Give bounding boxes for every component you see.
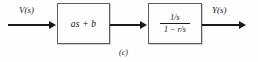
output-signal-label: Y(s): [212, 5, 227, 15]
transfer-function-denominator: 1 − r/s: [161, 24, 189, 35]
interstage-wire: [110, 24, 144, 26]
figure-caption: (c): [119, 48, 128, 57]
transfer-function-fraction: 1/s 1 − r/s: [160, 13, 190, 35]
block-diagram-figure: V(s) as + b 1/s 1 − r/s Y(s) (c): [0, 0, 258, 62]
transfer-function-numerator: 1/s: [167, 13, 182, 24]
output-arrowhead-icon: [239, 21, 246, 29]
gain-block-label: as + b: [71, 19, 97, 29]
output-wire: [202, 24, 242, 26]
transfer-function-block: 1/s 1 − r/s: [148, 3, 202, 44]
interstage-arrowhead-icon: [140, 21, 147, 29]
input-signal-label: V(s): [19, 5, 34, 15]
input-wire: [8, 24, 52, 26]
gain-block: as + b: [57, 3, 110, 44]
input-arrowhead-icon: [49, 21, 56, 29]
